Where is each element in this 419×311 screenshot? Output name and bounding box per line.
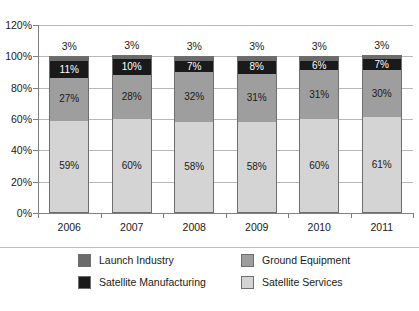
- segment-value-label: 10%: [122, 62, 142, 72]
- x-axis-tick-mark: [226, 213, 227, 218]
- bar-total-label: 3%: [227, 41, 287, 52]
- bar-segment-satellite-services: 59%: [49, 121, 89, 213]
- bar-segment-ground-equipment: 32%: [174, 72, 214, 122]
- bar-segment-ground-equipment: 28%: [112, 75, 152, 119]
- x-axis-tick-label: 2007: [102, 221, 162, 233]
- x-axis-tick-label: 2011: [352, 221, 412, 233]
- legend-item-label: Satellite Manufacturing: [99, 277, 206, 288]
- gridline: [38, 56, 413, 57]
- segment-value-label: 61%: [372, 160, 392, 170]
- segment-value-label: 31%: [247, 93, 267, 103]
- segment-value-label: 28%: [122, 92, 142, 102]
- bar-segment-satellite-services: 60%: [112, 119, 152, 213]
- y-axis-tick-label: 100%: [0, 51, 32, 61]
- bar-total-label: 3%: [102, 40, 162, 51]
- y-axis-tick-mark: [33, 182, 39, 183]
- legend-item-ground-equipment[interactable]: Ground Equipment: [241, 254, 404, 267]
- legend-item-launch-industry[interactable]: Launch Industry: [78, 254, 241, 267]
- y-axis-tick-label: 40%: [0, 145, 32, 155]
- bar-segment-satellite-manufacturing: 7%: [362, 59, 402, 70]
- segment-value-label: 6%: [312, 61, 326, 71]
- bar-segment-ground-equipment: 31%: [299, 70, 339, 119]
- y-axis-tick-label: 60%: [0, 114, 32, 124]
- segment-value-label: 7%: [375, 60, 389, 70]
- bar-2010: 3%6%31%60%: [299, 56, 339, 213]
- legend-separator: [0, 247, 419, 248]
- bar-total-label: 3%: [164, 41, 224, 52]
- bar-2009: 3%8%31%58%: [237, 56, 277, 213]
- y-axis-tick-label: 80%: [0, 83, 32, 93]
- segment-value-label: 60%: [309, 161, 329, 171]
- segment-value-label: 8%: [250, 62, 264, 72]
- segment-value-label: 58%: [184, 162, 204, 172]
- bar-segment-satellite-manufacturing: 7%: [174, 61, 214, 72]
- legend-item-label: Ground Equipment: [262, 255, 350, 266]
- y-axis-tick-mark: [33, 88, 39, 89]
- bar-segment-satellite-services: 58%: [174, 122, 214, 213]
- segment-value-label: 27%: [59, 94, 79, 104]
- x-axis-tick-mark: [288, 213, 289, 218]
- legend-swatch-icon: [78, 276, 91, 289]
- y-axis-tick-label: 120%: [0, 20, 32, 30]
- y-axis-tick-mark: [33, 25, 39, 26]
- segment-value-label: 58%: [247, 162, 267, 172]
- y-axis-tick-label: 20%: [0, 177, 32, 187]
- legend-item-satellite-services[interactable]: Satellite Services: [241, 276, 404, 289]
- legend-swatch-icon: [241, 276, 254, 289]
- bar-total-label: 3%: [39, 41, 99, 52]
- legend-swatch-icon: [78, 254, 91, 267]
- legend-swatch-icon: [241, 254, 254, 267]
- bar-segment-satellite-manufacturing: 8%: [237, 61, 277, 74]
- segment-value-label: 32%: [184, 92, 204, 102]
- bar-2008: 3%7%32%58%: [174, 56, 214, 213]
- x-axis-tick-mark: [163, 213, 164, 218]
- y-axis-tick-mark: [33, 56, 39, 57]
- bar-segment-ground-equipment: 30%: [362, 70, 402, 117]
- bar-total-label: 3%: [352, 40, 412, 51]
- gridline: [38, 88, 413, 89]
- gridline: [38, 182, 413, 183]
- bar-segment-satellite-services: 61%: [362, 117, 402, 213]
- bar-2007: 3%10%28%60%: [112, 55, 152, 213]
- segment-value-label: 60%: [122, 161, 142, 171]
- stacked-bar-chart: 3%11%27%59%3%3%10%28%60%3%3%7%32%58%3%3%…: [0, 0, 419, 311]
- x-axis-tick-mark: [413, 213, 414, 218]
- gridline: [38, 150, 413, 151]
- x-axis-tick-label: 2009: [227, 221, 287, 233]
- y-axis-tick-label: 0%: [0, 208, 32, 218]
- segment-value-label: 11%: [60, 65, 79, 75]
- bar-total-label: 3%: [289, 41, 349, 52]
- gridline: [38, 119, 413, 120]
- x-axis-tick-label: 2008: [164, 221, 224, 233]
- bar-segment-satellite-manufacturing: 6%: [299, 61, 339, 70]
- legend-item-satellite-manufacturing[interactable]: Satellite Manufacturing: [78, 276, 241, 289]
- segment-value-label: 30%: [372, 89, 392, 99]
- x-axis-tick-mark: [38, 213, 39, 218]
- chart-legend: Launch IndustryGround EquipmentSatellite…: [78, 254, 408, 289]
- y-axis-tick-mark: [33, 150, 39, 151]
- bar-segment-ground-equipment: 31%: [237, 74, 277, 123]
- bar-2006: 3%11%27%59%: [49, 56, 89, 213]
- bar-segment-ground-equipment: 27%: [49, 78, 89, 120]
- gridline: [38, 25, 413, 26]
- bar-2011: 3%7%30%61%: [362, 55, 402, 213]
- x-axis-tick-label: 2006: [39, 221, 99, 233]
- segment-value-label: 31%: [309, 90, 329, 100]
- bar-segment-satellite-services: 60%: [299, 119, 339, 213]
- y-axis-tick-mark: [33, 119, 39, 120]
- x-axis-tick-mark: [351, 213, 352, 218]
- legend-item-label: Satellite Services: [262, 277, 343, 288]
- plot-area: 3%11%27%59%3%3%10%28%60%3%3%7%32%58%3%3%…: [38, 25, 413, 213]
- legend-item-label: Launch Industry: [99, 255, 174, 266]
- bar-segment-satellite-manufacturing: 10%: [112, 59, 152, 75]
- segment-value-label: 7%: [187, 62, 201, 72]
- segment-value-label: 59%: [59, 161, 79, 171]
- bar-segment-satellite-services: 58%: [237, 122, 277, 213]
- bar-segment-satellite-manufacturing: 11%: [49, 61, 89, 78]
- x-axis-tick-label: 2010: [289, 221, 349, 233]
- x-axis-tick-mark: [101, 213, 102, 218]
